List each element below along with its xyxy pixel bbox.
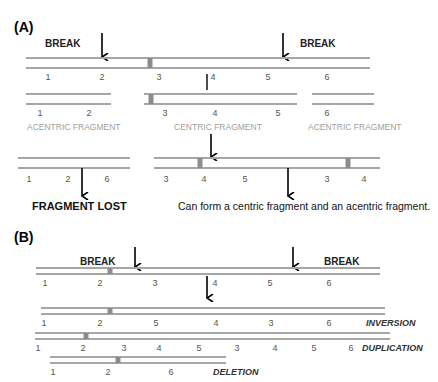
- fragment-caption: ACENTRIC FRAGMENT: [308, 122, 402, 132]
- inversion-chromosome: 125436INVERSION: [41, 308, 416, 328]
- inversion-caption: INVERSION: [366, 318, 416, 328]
- locus-number: 6: [104, 174, 109, 184]
- break-fragments: 12ACENTRIC FRAGMENT345CENTRIC FRAGMENT6A…: [26, 94, 402, 132]
- aberration-rows: 123456125436INVERSION123453456DUPLICATIO…: [35, 268, 423, 377]
- fragment-caption: CENTRIC FRAGMENT: [174, 122, 262, 132]
- locus-number: 6: [324, 108, 329, 118]
- original-chromosome: 123456: [36, 268, 380, 288]
- locus-number: 3: [121, 343, 126, 353]
- break-label-right: BREAK: [300, 38, 336, 49]
- main-chromosome: 123456: [26, 58, 370, 82]
- locus-number: 2: [99, 72, 104, 82]
- panel-a-label: (A): [14, 19, 33, 35]
- dicentric-note: Can form a centric fragment and an acent…: [178, 200, 430, 212]
- locus-number: 6: [326, 278, 331, 288]
- break-label-right: BREAK: [324, 256, 360, 267]
- locus-number: 6: [168, 367, 173, 377]
- locus-number: 5: [153, 318, 158, 328]
- fragment-caption: ACENTRIC FRAGMENT: [27, 122, 121, 132]
- locus-number: 5: [265, 72, 270, 82]
- locus-number: 6: [324, 72, 329, 82]
- locus-number: 2: [65, 174, 70, 184]
- locus-number: 3: [234, 343, 239, 353]
- fragment-lost-label: FRAGMENT LOST: [32, 200, 127, 212]
- locus-number: 6: [348, 343, 353, 353]
- locus-number: 5: [196, 343, 201, 353]
- locus-number: 5: [242, 174, 247, 184]
- locus-number: 1: [42, 278, 47, 288]
- locus-number: 5: [267, 278, 272, 288]
- locus-number: 1: [50, 367, 55, 377]
- locus-number: 2: [80, 343, 85, 353]
- break-label-left: BREAK: [80, 256, 116, 267]
- fused-acentric-chromosome: 126: [18, 158, 130, 184]
- locus-number: 3: [152, 278, 157, 288]
- centromere: [108, 268, 113, 274]
- panel-b: (B) BREAK BREAK 123456125436INVERSION123…: [14, 229, 423, 377]
- centromere: [148, 58, 153, 68]
- centromere: [198, 158, 203, 168]
- deletion-caption: DELETION: [213, 367, 259, 377]
- main-chromosome: 123456: [26, 58, 370, 82]
- locus-number: 4: [212, 278, 217, 288]
- locus-number: 4: [156, 343, 161, 353]
- locus-number: 1: [41, 318, 46, 328]
- locus-number: 3: [324, 174, 329, 184]
- centromere: [108, 308, 113, 314]
- locus-number: 2: [97, 278, 102, 288]
- panel-a: (A) BREAK BREAK 123456 12ACENTRIC FRAGME…: [14, 19, 430, 212]
- centromere: [149, 94, 154, 104]
- locus-number: 4: [272, 343, 277, 353]
- locus-number: 1: [37, 108, 42, 118]
- locus-number: 4: [361, 174, 366, 184]
- centromere: [346, 158, 351, 168]
- locus-number: 3: [162, 108, 167, 118]
- break-label-left: BREAK: [45, 38, 81, 49]
- locus-number: 3: [268, 318, 273, 328]
- locus-number: 1: [35, 343, 40, 353]
- locus-number: 6: [326, 318, 331, 328]
- locus-number: 1: [45, 72, 50, 82]
- rejoined-chromosomes: 12634534: [18, 158, 380, 184]
- locus-number: 4: [210, 72, 215, 82]
- acentric-right-fragment: 6: [312, 94, 374, 118]
- panel-b-label: (B): [14, 229, 33, 245]
- duplication-caption: DUPLICATION: [362, 343, 423, 353]
- locus-number: 4: [212, 108, 217, 118]
- centromere: [84, 333, 89, 339]
- duplication-chromosome: 123453456DUPLICATION: [35, 333, 423, 353]
- locus-number: 2: [105, 367, 110, 377]
- locus-number: 5: [311, 343, 316, 353]
- locus-number: 2: [97, 318, 102, 328]
- dicentric-chromosome: 34534: [154, 158, 380, 184]
- centric-fragment: 345: [144, 94, 297, 118]
- locus-number: 2: [86, 108, 91, 118]
- locus-number: 5: [275, 108, 280, 118]
- chromosome-aberration-diagram: (A) BREAK BREAK 123456 12ACENTRIC FRAGME…: [0, 0, 438, 382]
- centromere: [116, 357, 121, 363]
- locus-number: 4: [201, 174, 206, 184]
- locus-number: 3: [156, 72, 161, 82]
- locus-number: 3: [163, 174, 168, 184]
- locus-number: 1: [26, 174, 31, 184]
- acentric-left-fragment: 12: [26, 94, 111, 118]
- deletion-chromosome: 126DELETION: [50, 357, 259, 377]
- locus-number: 4: [213, 318, 218, 328]
